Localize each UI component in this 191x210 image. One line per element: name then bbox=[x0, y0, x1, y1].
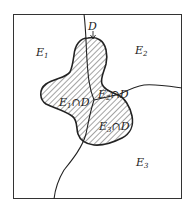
label-e3-cap-d: E3∩D bbox=[98, 120, 130, 134]
label-e1-cap-d: E1∩D bbox=[58, 96, 90, 110]
label-e2: E2 bbox=[134, 44, 148, 58]
label-e2-cap-d: E2∩D bbox=[97, 88, 129, 102]
label-e3: E3 bbox=[135, 156, 149, 170]
partition-diagram: E1 E2 E3 D E1∩D E2∩D E3∩D bbox=[0, 0, 191, 210]
label-e1: E1 bbox=[35, 46, 49, 60]
label-d: D bbox=[87, 20, 97, 33]
